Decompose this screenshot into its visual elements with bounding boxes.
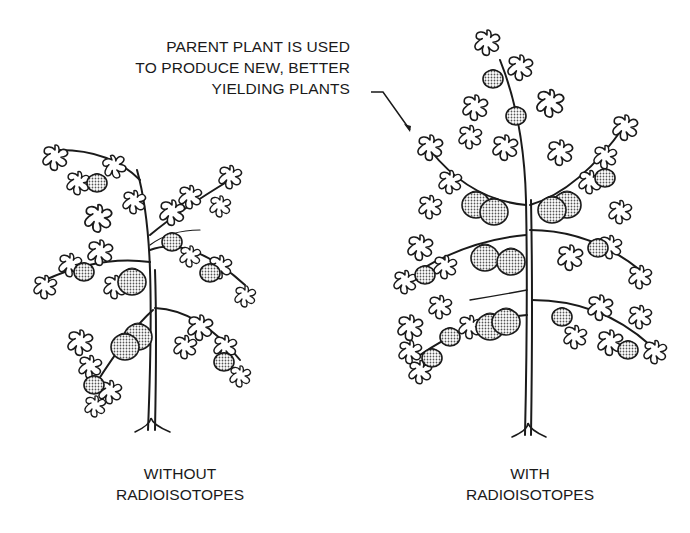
arrowhead-icon bbox=[404, 124, 411, 132]
callout-text: PARENT PLANT IS USED TO PRODUCE NEW, BET… bbox=[135, 36, 350, 99]
callout-arrow bbox=[371, 92, 411, 132]
callout-line-3: YIELDING PLANTS bbox=[135, 78, 350, 99]
callout-line-1: PARENT PLANT IS USED bbox=[135, 36, 350, 57]
caption-line-1: WITHOUT bbox=[80, 463, 280, 484]
caption-line-2: RADIOISOTOPES bbox=[430, 484, 630, 505]
caption-with-radioisotopes: WITH RADIOISOTOPES bbox=[430, 463, 630, 505]
caption-without-radioisotopes: WITHOUT RADIOISOTOPES bbox=[80, 463, 280, 505]
caption-line-1: WITH bbox=[430, 463, 630, 484]
callout-line-2: TO PRODUCE NEW, BETTER bbox=[135, 57, 350, 78]
caption-line-2: RADIOISOTOPES bbox=[80, 484, 280, 505]
